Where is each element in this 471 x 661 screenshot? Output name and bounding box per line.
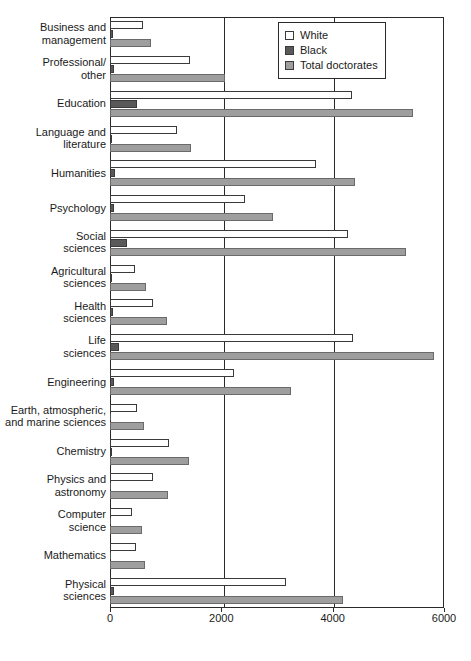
bar-total xyxy=(110,526,142,534)
bar-black xyxy=(110,587,114,595)
bar-black xyxy=(110,239,127,247)
bar-group xyxy=(110,87,444,122)
bar-white xyxy=(110,578,286,586)
bar-white xyxy=(110,299,153,307)
category-label: Chemistry xyxy=(0,445,106,458)
bar-total xyxy=(110,491,168,499)
x-axis-ticks: 0200040006000 xyxy=(0,612,471,636)
category-label: Social sciences xyxy=(0,230,106,255)
bar-black xyxy=(110,413,111,421)
bar-black xyxy=(110,65,114,73)
bar-group xyxy=(110,504,444,539)
category-label: Language and literature xyxy=(0,126,106,151)
bar-group xyxy=(110,538,444,573)
bar-black xyxy=(110,135,112,143)
legend: White Black Total doctorates xyxy=(278,22,386,79)
bar-black xyxy=(110,30,113,38)
bar-white xyxy=(110,543,136,551)
category-label: Health sciences xyxy=(0,300,106,325)
category-label: Education xyxy=(0,97,106,110)
legend-swatch-total-doctorates-icon xyxy=(285,61,294,70)
bar-black xyxy=(110,308,113,316)
bar-total xyxy=(110,213,273,221)
legend-item-white: White xyxy=(285,28,378,42)
bar-total xyxy=(110,283,146,291)
bar-total xyxy=(110,317,167,325)
bar-group xyxy=(110,191,444,226)
bar-white xyxy=(110,265,135,273)
bar-white xyxy=(110,508,132,516)
bar-total xyxy=(110,109,413,117)
category-label: Business and management xyxy=(0,21,106,46)
category-label: Computer science xyxy=(0,508,106,533)
bar-group xyxy=(110,434,444,469)
bar-black xyxy=(110,100,137,108)
legend-item-total-doctorates: Total doctorates xyxy=(285,58,378,72)
category-labels: Business and managementProfessional/ oth… xyxy=(0,17,106,608)
bar-total xyxy=(110,144,191,152)
category-label: Earth, atmospheric, and marine sciences xyxy=(0,404,106,429)
category-label: Engineering xyxy=(0,376,106,389)
bar-black xyxy=(110,482,111,490)
bar-group xyxy=(110,121,444,156)
bar-total xyxy=(110,561,145,569)
bar-total xyxy=(110,457,189,465)
bar-black xyxy=(110,448,112,456)
bar-total xyxy=(110,352,434,360)
legend-swatch-white-icon xyxy=(285,31,294,40)
bar-total xyxy=(110,596,343,604)
bar-white xyxy=(110,230,348,238)
x-tick-label: 0 xyxy=(107,612,113,624)
bar-white xyxy=(110,473,153,481)
category-label: Mathematics xyxy=(0,549,106,562)
bar-black xyxy=(110,552,111,560)
bar-black xyxy=(110,343,119,351)
legend-swatch-black-icon xyxy=(285,46,294,55)
bar-black xyxy=(110,378,114,386)
bar-white xyxy=(110,369,234,377)
bar-white xyxy=(110,21,143,29)
x-tick-label: 6000 xyxy=(432,612,456,624)
bar-black xyxy=(110,274,112,282)
bar-total xyxy=(110,74,225,82)
bar-black xyxy=(110,204,114,212)
bar-group xyxy=(110,295,444,330)
bar-white xyxy=(110,126,177,134)
bar-white xyxy=(110,160,316,168)
category-label: Psychology xyxy=(0,202,106,215)
bars-layer xyxy=(110,17,444,608)
bar-group xyxy=(110,260,444,295)
bar-total xyxy=(110,248,406,256)
bar-group xyxy=(110,399,444,434)
bar-white xyxy=(110,334,353,342)
bar-total xyxy=(110,178,355,186)
bar-group xyxy=(110,469,444,504)
legend-label-total-doctorates: Total doctorates xyxy=(300,59,378,71)
category-label: Life sciences xyxy=(0,334,106,359)
category-label: Agricultural sciences xyxy=(0,265,106,290)
bar-total xyxy=(110,387,291,395)
bar-group xyxy=(110,365,444,400)
bar-white xyxy=(110,56,190,64)
legend-label-white: White xyxy=(300,29,328,41)
category-label: Physics and astronomy xyxy=(0,473,106,498)
legend-label-black: Black xyxy=(300,44,327,56)
category-label: Physical sciences xyxy=(0,578,106,603)
horizontal-bar-chart: Business and managementProfessional/ oth… xyxy=(0,0,471,661)
bar-white xyxy=(110,439,169,447)
bar-total xyxy=(110,39,151,47)
bar-group xyxy=(110,226,444,261)
bar-group xyxy=(110,17,444,52)
bar-white xyxy=(110,195,245,203)
bar-group xyxy=(110,330,444,365)
bar-total xyxy=(110,422,144,430)
legend-item-black: Black xyxy=(285,43,378,57)
bar-group xyxy=(110,573,444,608)
bar-black xyxy=(110,169,115,177)
x-tick-label: 2000 xyxy=(209,612,233,624)
x-tick-label: 4000 xyxy=(320,612,344,624)
bar-white xyxy=(110,91,352,99)
category-label: Professional/ other xyxy=(0,56,106,81)
bar-black xyxy=(110,517,111,525)
bar-group xyxy=(110,156,444,191)
